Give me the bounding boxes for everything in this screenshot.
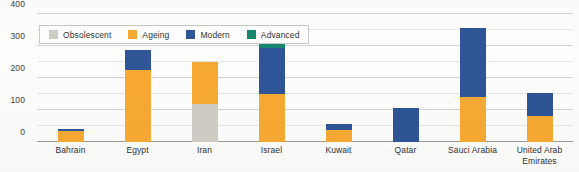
stacked-bar[interactable] xyxy=(393,108,419,142)
bar-segment-ageing[interactable] xyxy=(125,70,151,142)
bar-segment-obsolescent[interactable] xyxy=(192,104,218,142)
x-axis-label: Egypt xyxy=(104,145,171,156)
x-axis-label: Bahrain xyxy=(37,145,104,156)
legend-item-ageing[interactable]: Ageing xyxy=(128,30,169,40)
legend-label: Ageing xyxy=(142,30,169,40)
bar-group xyxy=(439,14,506,142)
legend-swatch-icon xyxy=(247,30,256,39)
legend-label: Modern xyxy=(200,30,229,40)
bar-segment-ageing[interactable] xyxy=(527,116,553,142)
legend-label: Obsolescent xyxy=(63,30,111,40)
x-axis-label: Israel xyxy=(238,145,305,156)
y-axis-tick-label: 400 xyxy=(0,0,25,9)
legend-item-modern[interactable]: Modern xyxy=(186,30,229,40)
legend-swatch-icon xyxy=(186,30,195,39)
stacked-bar-chart: 0100200300400 ObsolescentAgeingModernAdv… xyxy=(0,0,579,172)
bar-segment-ageing[interactable] xyxy=(192,62,218,104)
bar-segment-modern[interactable] xyxy=(393,108,419,142)
x-axis-label: Kuwait xyxy=(305,145,372,156)
x-axis-label: Iran xyxy=(171,145,238,156)
x-axis-label: United Arab Emirates xyxy=(506,145,573,166)
bar-segment-ageing[interactable] xyxy=(460,97,486,142)
x-axis-label: Qatar xyxy=(372,145,439,156)
legend-item-advanced[interactable]: Advanced xyxy=(247,30,300,40)
y-axis-tick-label: 0 xyxy=(0,127,25,137)
bar-segment-modern[interactable] xyxy=(259,48,285,94)
y-axis-tick-label: 300 xyxy=(0,31,25,41)
bar-segment-ageing[interactable] xyxy=(259,94,285,142)
y-axis-tick-label: 100 xyxy=(0,95,25,105)
bar-group xyxy=(305,14,372,142)
stacked-bar[interactable] xyxy=(326,124,352,142)
bar-segment-modern[interactable] xyxy=(527,93,553,116)
x-axis-label: Sauci Arabia xyxy=(439,145,506,156)
stacked-bar[interactable] xyxy=(125,50,151,142)
y-axis-tick-label: 200 xyxy=(0,63,25,73)
stacked-bar[interactable] xyxy=(527,93,553,142)
chart-legend: ObsolescentAgeingModernAdvanced xyxy=(39,25,309,44)
legend-swatch-icon xyxy=(49,30,58,39)
bar-segment-ageing[interactable] xyxy=(58,131,84,142)
bar-group xyxy=(372,14,439,142)
stacked-bar[interactable] xyxy=(460,28,486,142)
stacked-bar[interactable] xyxy=(192,62,218,142)
legend-swatch-icon xyxy=(128,30,137,39)
stacked-bar[interactable] xyxy=(58,129,84,142)
legend-label: Advanced xyxy=(261,30,300,40)
bar-group xyxy=(506,14,573,142)
bar-segment-modern[interactable] xyxy=(460,28,486,97)
legend-item-obsolescent[interactable]: Obsolescent xyxy=(49,30,111,40)
stacked-bar[interactable] xyxy=(259,38,285,142)
bar-segment-ageing[interactable] xyxy=(326,130,352,142)
bar-segment-modern[interactable] xyxy=(125,50,151,70)
